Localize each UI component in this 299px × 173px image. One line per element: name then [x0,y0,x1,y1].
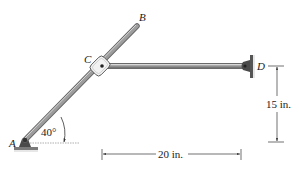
angle-label: 40° [41,126,56,138]
label-d: D [256,60,265,72]
wall-support-d [242,55,255,78]
horizontal-dimension-label: 20 in. [158,148,183,160]
pin-a [23,138,28,143]
rod-ab [24,25,137,140]
angle-arc [61,117,65,142]
rod-cd [103,63,246,69]
pin-d [243,64,246,67]
mechanism-diagram: 40° B C D [0,0,299,173]
pin-c [100,64,104,68]
vertical-dimension-label: 15 in. [266,98,291,110]
label-c: C [84,53,92,65]
label-b: B [139,11,146,23]
horizontal-dimension: 20 in. [102,148,241,160]
vertical-dimension: 15 in. [266,66,291,142]
label-a: A [8,137,16,149]
ground-base [14,147,38,150]
